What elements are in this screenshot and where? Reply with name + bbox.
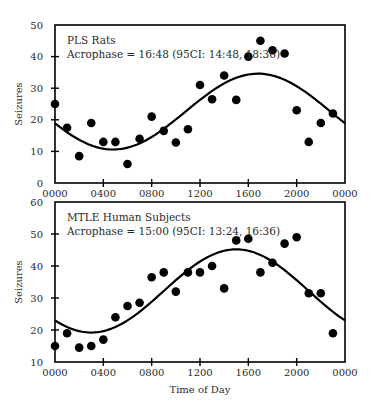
data-point [123,302,132,311]
data-point [329,109,338,118]
data-point [208,262,217,271]
data-point [87,342,96,351]
y-tick-label: 60 [30,197,43,208]
data-point [99,138,108,147]
data-point [317,119,326,128]
data-point [317,289,326,298]
data-point [268,259,277,268]
x-axis-ticks: 0000040008001200160020000000 [42,179,357,199]
data-point [256,37,265,46]
data-point [304,138,313,147]
data-point [220,71,229,80]
data-point [280,49,289,58]
x-tick-label: 1200 [187,188,212,199]
data-point [196,268,205,277]
y-tick-label: 50 [30,229,43,240]
panel-title: MTLE Human Subjects [67,211,191,223]
data-point [292,233,301,242]
data-point [280,239,289,248]
y-axis-title: Seizures [13,260,24,304]
y-tick-label: 0 [37,178,43,189]
data-point [111,313,120,322]
y-tick-label: 30 [30,83,43,94]
panel-mtle-human: 102030405060 000004000800120016002000000… [13,197,358,379]
x-tick-label: 0400 [91,367,116,378]
x-tick-label: 0000 [42,188,67,199]
seizure-circadian-figure: 01020304050 0000040008001200160020000000… [0,0,372,409]
x-tick-label: 0400 [91,188,116,199]
x-tick-label: 1200 [187,367,212,378]
y-tick-label: 10 [30,146,43,157]
data-point [292,106,301,115]
data-point [63,123,72,132]
data-point [208,95,217,104]
data-point [51,100,60,109]
x-tick-label: 1600 [236,188,261,199]
data-point [159,127,168,136]
data-point [184,268,193,277]
y-tick-label: 10 [30,357,43,368]
acrophase-label: Acrophase = 15:00 (95CI: 13:24, 16:36) [66,225,280,237]
panel-title: PLS Rats [67,34,116,46]
data-point [232,236,241,245]
data-point [304,289,313,298]
data-point [123,160,132,169]
chart-canvas: 01020304050 0000040008001200160020000000… [0,0,372,409]
data-point [63,329,72,338]
y-axis-title: Seizures [13,82,24,126]
x-tick-label: 0800 [139,188,164,199]
data-point [135,299,144,308]
data-point [172,287,181,296]
x-tick-label: 1600 [236,367,261,378]
data-point [147,273,156,282]
panel-pls-rats: 01020304050 0000040008001200160020000000… [13,20,358,200]
data-point [184,125,193,134]
data-point [135,134,144,143]
data-point [75,152,84,161]
data-point [329,329,338,338]
data-point [232,96,241,105]
data-point [87,119,96,128]
cosinor-fit-curve [55,249,345,332]
data-point [172,138,181,147]
x-tick-label: 0800 [139,367,164,378]
y-tick-label: 40 [30,261,43,272]
data-point [99,335,108,344]
data-point [220,284,229,293]
x-tick-label: 2000 [284,367,309,378]
data-point [111,138,120,147]
x-axis-ticks: 0000040008001200160020000000 [42,358,357,378]
data-point [51,342,60,351]
data-point [159,268,168,277]
y-tick-label: 20 [30,114,43,125]
x-tick-label: 0000 [332,367,357,378]
y-tick-label: 40 [30,51,43,62]
data-point [147,112,156,121]
data-point [256,268,265,277]
data-point [196,81,205,90]
x-axis-title: Time of Day [170,384,231,395]
y-tick-label: 30 [30,293,43,304]
y-tick-label: 20 [30,325,43,336]
x-tick-label: 0000 [42,367,67,378]
data-points [51,233,338,352]
x-tick-label: 2000 [284,188,309,199]
y-tick-label: 50 [30,20,43,31]
x-tick-label: 0000 [332,188,357,199]
data-point [75,343,84,352]
acrophase-label: Acrophase = 16:48 (95CI: 14:48, 18:36) [66,48,280,60]
